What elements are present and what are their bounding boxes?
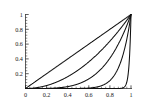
x-tick-label: 0.6	[85, 91, 93, 98]
x-tick-label: 0	[24, 91, 27, 98]
x-tick-label: 1	[129, 91, 132, 98]
plot-canvas: 00.20.40.60.81 0.20.40.60.81	[0, 0, 143, 104]
y-tick-label: 0.6	[15, 40, 23, 47]
x-tick-label: 0.8	[106, 91, 114, 98]
x-tick-label: 0.2	[43, 91, 51, 98]
y-tick-label: 0.8	[15, 26, 23, 33]
y-tick-label: 0.2	[15, 70, 23, 77]
x-tick-label: 0.4	[64, 91, 72, 98]
y-tick-label: 1	[20, 11, 23, 18]
y-tick-label: 0.4	[15, 55, 23, 62]
chart-figure: 00.20.40.60.81 0.20.40.60.81	[0, 0, 143, 104]
